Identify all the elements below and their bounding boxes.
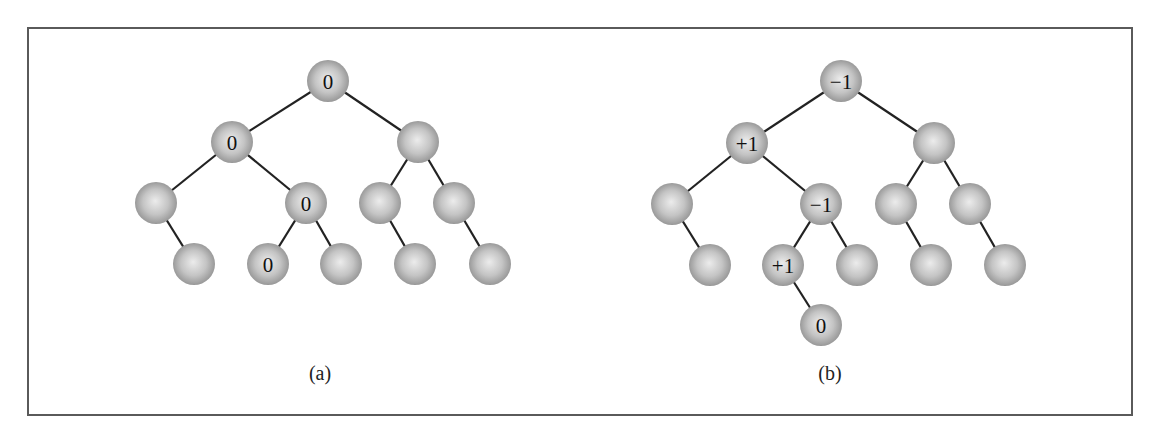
- node-sphere: [651, 183, 693, 225]
- node-sphere: [394, 243, 436, 285]
- tree-node: [689, 244, 731, 286]
- node-sphere: [910, 244, 952, 286]
- tree-node: [949, 183, 991, 225]
- node-sphere: [397, 121, 439, 163]
- tree-node: [433, 182, 475, 224]
- tree-a-nodes: 0000: [135, 60, 511, 285]
- tree-node: [469, 243, 511, 285]
- balance-factor-label: 0: [816, 314, 827, 338]
- tree-diagram: 0000 −1+1−1+10: [0, 0, 1167, 445]
- tree-b-nodes: −1+1−1+10: [651, 60, 1026, 346]
- node-sphere: [469, 243, 511, 285]
- balance-factor-label: 0: [263, 253, 274, 277]
- balance-factor-label: 0: [323, 70, 334, 94]
- node-sphere: [359, 182, 401, 224]
- tree-node: [359, 182, 401, 224]
- caption-b: (b): [818, 362, 841, 385]
- tree-node: [320, 243, 362, 285]
- tree-node: [397, 121, 439, 163]
- tree-node: [135, 182, 177, 224]
- node-sphere: [320, 243, 362, 285]
- node-sphere: [433, 182, 475, 224]
- tree-b: −1+1−1+10: [651, 60, 1026, 346]
- tree-node: [394, 243, 436, 285]
- tree-node: 0: [285, 182, 327, 224]
- tree-node: [651, 183, 693, 225]
- node-sphere: [875, 183, 917, 225]
- node-sphere: [836, 244, 878, 286]
- tree-node: [913, 122, 955, 164]
- balance-factor-label: +1: [772, 254, 794, 278]
- tree-node: [875, 183, 917, 225]
- tree-node: [836, 244, 878, 286]
- tree-node: −1: [800, 183, 842, 225]
- node-sphere: [949, 183, 991, 225]
- balance-factor-label: +1: [736, 132, 758, 156]
- tree-node: [984, 244, 1026, 286]
- tree-node: 0: [247, 243, 289, 285]
- tree-a-edges: [156, 81, 490, 264]
- node-sphere: [689, 244, 731, 286]
- balance-factor-label: 0: [227, 131, 238, 155]
- balance-factor-label: 0: [301, 192, 312, 216]
- tree-node: +1: [762, 244, 804, 286]
- tree-node: [173, 243, 215, 285]
- tree-node: 0: [800, 304, 842, 346]
- tree-node: 0: [211, 121, 253, 163]
- node-sphere: [135, 182, 177, 224]
- tree-node: [910, 244, 952, 286]
- tree-node: 0: [307, 60, 349, 102]
- caption-a: (a): [309, 362, 331, 385]
- tree-a: 0000: [135, 60, 511, 285]
- balance-factor-label: −1: [810, 193, 832, 217]
- balance-factor-label: −1: [830, 70, 852, 94]
- node-sphere: [913, 122, 955, 164]
- tree-node: +1: [726, 122, 768, 164]
- node-sphere: [173, 243, 215, 285]
- tree-node: −1: [820, 60, 862, 102]
- node-sphere: [984, 244, 1026, 286]
